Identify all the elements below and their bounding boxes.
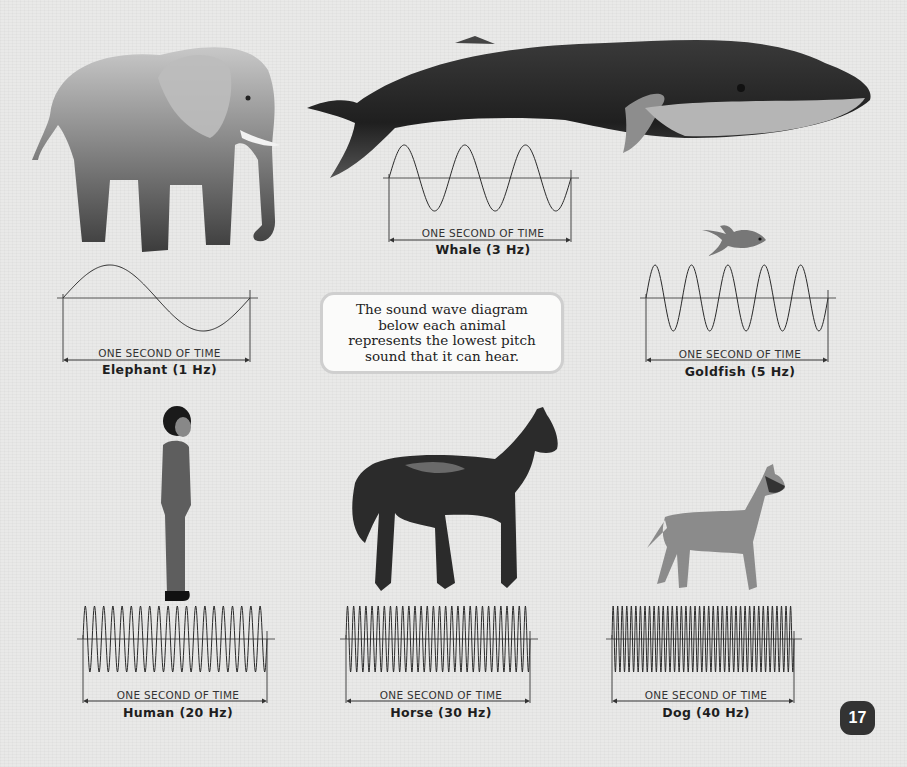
explanation-note: The sound wave diagram below each animal… [320, 292, 564, 374]
dog-illustration [645, 462, 790, 594]
human-axis-label: ONE SECOND OF TIME [77, 689, 279, 701]
whale-wave-diagram: ONE SECOND OF TIME Whale (3 Hz) [383, 142, 583, 260]
goldfish-axis-label: ONE SECOND OF TIME [640, 348, 840, 360]
whale-axis-label: ONE SECOND OF TIME [383, 227, 583, 239]
human-illustration [155, 405, 200, 603]
goldfish-wave-diagram: ONE SECOND OF TIME Goldfish (5 Hz) [640, 262, 840, 380]
page-number-badge: 17 [840, 701, 875, 735]
human-wave-diagram: ONE SECOND OF TIME Human (20 Hz) [77, 603, 279, 721]
note-line-2: below each animal [348, 318, 535, 334]
whale-label: Whale (3 Hz) [383, 242, 583, 257]
horse-wave-diagram: ONE SECOND OF TIME Horse (30 Hz) [340, 603, 542, 721]
note-line-4: sound that it can hear. [348, 349, 535, 365]
dog-axis-label: ONE SECOND OF TIME [606, 689, 806, 701]
dog-sound-wave [606, 603, 806, 703]
human-label: Human (20 Hz) [77, 705, 279, 720]
dog-wave-diagram: ONE SECOND OF TIME Dog (40 Hz) [606, 603, 806, 721]
elephant-axis-label: ONE SECOND OF TIME [57, 347, 262, 359]
elephant-label: Elephant (1 Hz) [57, 362, 262, 377]
horse-sound-wave [340, 603, 542, 703]
human-sound-wave [77, 603, 279, 703]
horse-label: Horse (30 Hz) [340, 705, 542, 720]
note-line-1: The sound wave diagram [348, 302, 535, 318]
elephant-wave-diagram: ONE SECOND OF TIME Elephant (1 Hz) [57, 262, 262, 380]
elephant-illustration [10, 20, 290, 260]
dog-label: Dog (40 Hz) [606, 705, 806, 720]
horse-illustration [345, 403, 565, 598]
goldfish-label: Goldfish (5 Hz) [640, 364, 840, 379]
goldfish-sound-wave [640, 262, 840, 362]
horse-axis-label: ONE SECOND OF TIME [340, 689, 542, 701]
goldfish-illustration [700, 222, 770, 258]
note-line-3: represents the lowest pitch [348, 333, 535, 349]
